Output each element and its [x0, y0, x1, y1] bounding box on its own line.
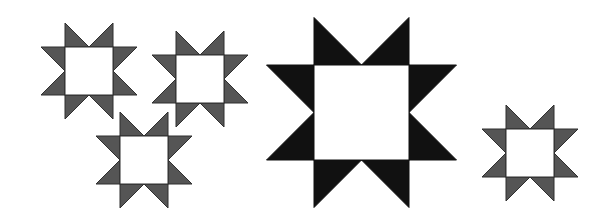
star-center-square	[506, 129, 554, 177]
star-center-square	[314, 65, 409, 160]
star-quilt-diagram	[0, 0, 608, 223]
star-center-square	[120, 136, 168, 184]
star-center-square	[176, 55, 224, 103]
star-center-square	[65, 47, 113, 95]
